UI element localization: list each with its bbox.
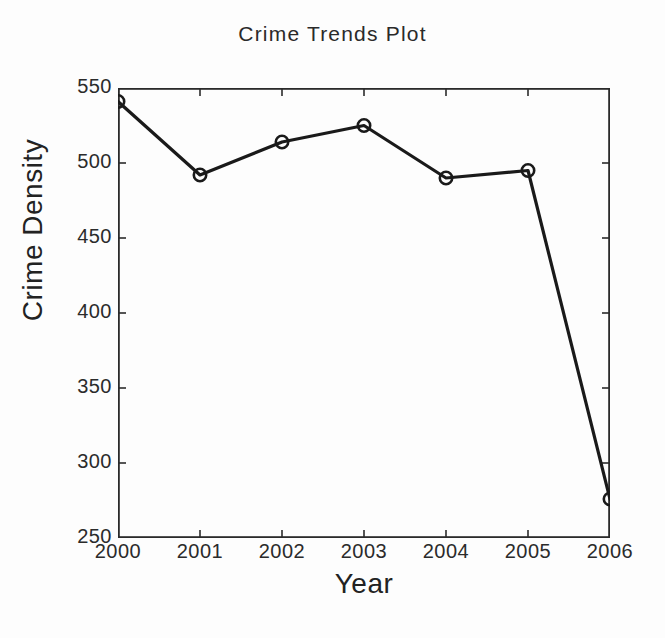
x-tick-label: 2006	[565, 540, 655, 563]
y-tick-label: 450	[50, 225, 112, 248]
data-series-line	[118, 102, 610, 500]
line-chart-svg	[118, 88, 610, 538]
plot-area	[118, 88, 610, 538]
axis-tick-marks	[118, 88, 610, 538]
x-tick-label: 2002	[237, 540, 327, 563]
x-axis-tick-labels: 2000200120022003200420052006	[118, 540, 610, 574]
y-axis-tick-labels: 550500450400350300250	[46, 88, 112, 538]
chart-figure: Crime Trends Plot Crime Density Year 550…	[0, 0, 665, 638]
axis-frame	[119, 89, 609, 537]
y-tick-label: 500	[50, 150, 112, 173]
y-tick-label: 400	[50, 300, 112, 323]
y-tick-label: 350	[50, 375, 112, 398]
y-tick-label: 300	[50, 450, 112, 473]
y-tick-label: 550	[50, 75, 112, 98]
data-point-markers	[118, 95, 610, 505]
x-tick-label: 2000	[73, 540, 163, 563]
chart-title: Crime Trends Plot	[0, 22, 665, 46]
x-tick-label: 2005	[483, 540, 573, 563]
x-tick-label: 2003	[319, 540, 409, 563]
y-axis-label: Crime Density	[17, 115, 49, 345]
x-tick-label: 2001	[155, 540, 245, 563]
x-tick-label: 2004	[401, 540, 491, 563]
